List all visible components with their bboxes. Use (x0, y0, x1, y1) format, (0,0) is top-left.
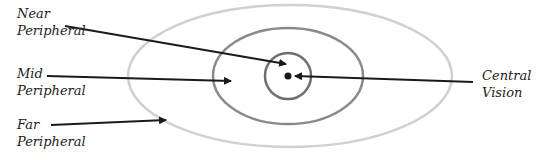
mid-peripheral-label-line2: Peripheral (17, 82, 86, 99)
near-peripheral-label: Near Peripheral (17, 5, 86, 39)
central-vision-label-line1: Central (482, 67, 531, 84)
central-vision-arrow (295, 76, 473, 82)
near-peripheral-label-line2: Peripheral (17, 22, 86, 39)
near-peripheral-label-line1: Near (17, 5, 86, 22)
central-vision-label: Central Vision (482, 67, 531, 101)
far-peripheral-label: Far Peripheral (17, 116, 86, 150)
mid-peripheral-label: Mid Peripheral (17, 65, 86, 99)
central-vision-label-line2: Vision (482, 84, 531, 101)
far-peripheral-label-line2: Peripheral (17, 133, 86, 150)
mid-peripheral-label-line1: Mid (17, 65, 86, 82)
far-peripheral-label-line1: Far (17, 116, 86, 133)
central-vision-dot (285, 73, 292, 80)
near-peripheral-arrow (65, 26, 286, 64)
